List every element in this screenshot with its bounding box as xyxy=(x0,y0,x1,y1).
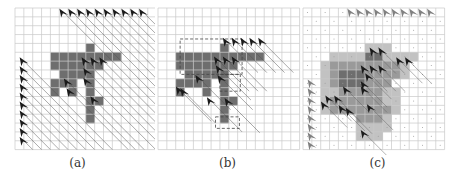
trail-dot xyxy=(360,100,361,101)
trail-dot xyxy=(325,12,326,13)
trail-dot xyxy=(369,92,370,93)
shaded-cell-mid xyxy=(330,79,339,88)
shaded-cell xyxy=(229,97,238,106)
trail-dot xyxy=(413,47,414,48)
trail-dot xyxy=(387,109,388,110)
agent-icon xyxy=(249,38,258,47)
trail-dot xyxy=(360,30,361,31)
trail-dot xyxy=(333,38,334,39)
trail-dot xyxy=(351,92,352,93)
trail-dot xyxy=(404,145,405,146)
shaded-cell-mid xyxy=(383,61,392,70)
trail-dot xyxy=(325,65,326,66)
shaded-cell-light xyxy=(321,88,330,97)
shaded-cell xyxy=(220,88,229,97)
trail-line xyxy=(71,92,155,155)
grid-panel-a xyxy=(0,0,155,155)
shaded-cell xyxy=(68,70,77,79)
shaded-cell xyxy=(50,52,59,61)
trail-dot xyxy=(369,21,370,22)
trail-dot xyxy=(431,136,432,137)
shaded-cell xyxy=(50,61,59,70)
shaded-cell xyxy=(68,61,77,70)
trail-dot xyxy=(325,136,326,137)
agent-icon xyxy=(418,9,427,18)
agent-icon xyxy=(104,9,113,18)
trail-dot xyxy=(404,74,405,75)
trail-dot xyxy=(351,38,352,39)
agent-icon xyxy=(95,9,104,18)
trail-line xyxy=(409,61,431,83)
trail-dot xyxy=(413,118,414,119)
trail-dot xyxy=(325,83,326,84)
trail-dot xyxy=(307,83,308,84)
trail-dot xyxy=(307,12,308,13)
trail-dot xyxy=(307,30,308,31)
trail-dot xyxy=(316,38,317,39)
trail-dot xyxy=(440,56,441,57)
shaded-cell-light xyxy=(392,105,401,114)
agent-icon xyxy=(113,9,122,18)
trail-dot xyxy=(307,65,308,66)
trail-line xyxy=(99,12,155,136)
trail-dot xyxy=(333,127,334,128)
shaded-cell xyxy=(193,52,202,61)
agent-icon xyxy=(392,9,401,18)
panel-b: (b) xyxy=(150,0,305,179)
trail-dot xyxy=(351,74,352,75)
trail-dot xyxy=(404,56,405,57)
shaded-cell xyxy=(86,114,95,123)
trail-dot xyxy=(316,56,317,57)
trail-dot xyxy=(413,100,414,101)
trail-dot xyxy=(378,100,379,101)
shaded-cell-light xyxy=(356,123,365,132)
panel-a: (a) xyxy=(0,0,155,179)
trail-dot xyxy=(351,127,352,128)
trail-dot xyxy=(333,21,334,22)
trail-dot xyxy=(316,109,317,110)
trail-dot xyxy=(369,38,370,39)
shaded-cell xyxy=(176,79,185,88)
trail-dot xyxy=(440,145,441,146)
shaded-cell-mid xyxy=(347,61,356,70)
agent-icon xyxy=(241,38,250,47)
trail-dot xyxy=(422,145,423,146)
shaded-cell xyxy=(220,114,229,123)
shaded-cell-dark xyxy=(374,52,383,61)
shaded-cell-light xyxy=(383,43,392,52)
trail-dot xyxy=(404,109,405,110)
shaded-cell-light xyxy=(374,123,383,132)
trail-dot xyxy=(307,136,308,137)
shaded-cell-dark xyxy=(356,70,365,79)
shaded-cell-mid xyxy=(374,70,383,79)
trail-dot xyxy=(440,109,441,110)
shaded-cell xyxy=(202,61,211,70)
shaded-cell-light xyxy=(392,88,401,97)
shaded-cell xyxy=(185,79,194,88)
trail-dot xyxy=(316,74,317,75)
agent-icon xyxy=(258,38,267,47)
grid-panel-c xyxy=(300,0,455,155)
agent-icon xyxy=(356,9,365,18)
agent-icon xyxy=(365,9,374,18)
shaded-cell-dark xyxy=(347,79,356,88)
trail-dot xyxy=(440,74,441,75)
trail-dot xyxy=(342,47,343,48)
caption-c: (c) xyxy=(300,156,455,170)
trail-dot xyxy=(360,118,361,119)
caption-a: (a) xyxy=(0,156,155,170)
shaded-cell xyxy=(59,52,68,61)
trail-dot xyxy=(387,127,388,128)
shaded-cell-light xyxy=(356,52,365,61)
shaded-cell-light xyxy=(383,114,392,123)
trail-dot xyxy=(360,136,361,137)
shaded-cell-mid xyxy=(330,61,339,70)
trail-dot xyxy=(422,56,423,57)
trail-dot xyxy=(316,127,317,128)
shaded-cell-light xyxy=(321,70,330,79)
trail-dot xyxy=(316,21,317,22)
agent-icon xyxy=(401,9,410,18)
trail-dot xyxy=(395,136,396,137)
trail-dot xyxy=(387,145,388,146)
trail-dot xyxy=(307,100,308,101)
